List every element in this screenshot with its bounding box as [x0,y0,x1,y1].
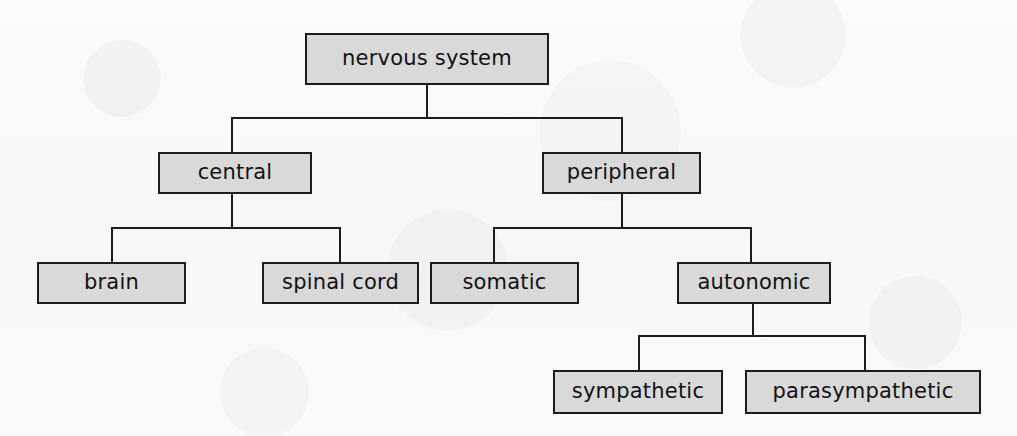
node-brain[interactable]: brain [37,262,186,304]
connector-autonomic-bus [638,335,866,337]
node-spinal-cord[interactable]: spinal cord [262,262,419,304]
connector-central-to-brain [111,227,113,263]
node-sympathetic-label: sympathetic [572,381,704,404]
connector-autonomic-to-sympathetic [638,335,640,371]
node-nervous-system-label: nervous system [342,48,512,71]
nervous-system-diagram: nervous system central peripheral brain … [0,0,1017,436]
connector-peripheral-to-somatic [493,227,495,263]
connector-peripheral-bus [493,227,752,229]
connector-central-to-spinal-cord [339,227,341,263]
node-central[interactable]: central [158,152,312,194]
connector-root-stem [426,84,428,118]
node-autonomic-label: autonomic [697,272,810,295]
node-brain-label: brain [84,272,139,295]
connector-root-bus [231,117,623,119]
connector-root-to-central [231,117,233,153]
node-peripheral[interactable]: peripheral [542,152,701,194]
connector-root-to-peripheral [621,117,623,153]
node-nervous-system[interactable]: nervous system [305,33,549,85]
connector-peripheral-to-autonomic [750,227,752,263]
node-spinal-cord-label: spinal cord [282,272,399,295]
node-central-label: central [198,162,273,185]
node-autonomic[interactable]: autonomic [677,262,831,304]
node-peripheral-label: peripheral [567,162,677,185]
node-sympathetic[interactable]: sympathetic [553,370,723,414]
connector-autonomic-stem [752,303,754,336]
node-parasympathetic[interactable]: parasympathetic [745,370,981,414]
node-parasympathetic-label: parasympathetic [773,381,954,404]
connector-autonomic-to-parasympathetic [864,335,866,371]
connector-central-stem [231,193,233,228]
connector-peripheral-stem [621,193,623,228]
connector-central-bus [111,227,341,229]
node-somatic[interactable]: somatic [430,262,579,304]
node-somatic-label: somatic [462,272,546,295]
